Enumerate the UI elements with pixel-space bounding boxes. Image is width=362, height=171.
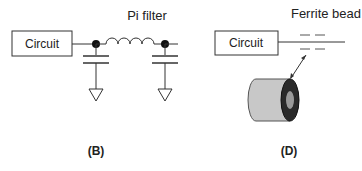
ground-icon [158, 89, 172, 101]
caption-d: (D) [281, 144, 298, 158]
pi-filter-title: Pi filter [127, 8, 167, 23]
ferrite-bead-illustration [248, 79, 299, 121]
panel-d: Ferrite bead Circuit (D) [215, 6, 361, 158]
capacitor-icon [83, 44, 109, 89]
inductor-icon [96, 38, 164, 44]
ground-icon [89, 89, 103, 101]
circuit-block-label: Circuit [229, 36, 264, 50]
caption-b: (B) [88, 144, 105, 158]
panel-b: Pi filter Circuit (B) [12, 8, 178, 158]
diagram-canvas: Pi filter Circuit (B) Ferrite bead C [0, 0, 362, 171]
capacitor-icon [152, 44, 178, 89]
ferrite-bead-title: Ferrite bead [291, 6, 361, 21]
double-arrow-icon [290, 55, 306, 79]
circuit-block-label: Circuit [25, 37, 60, 51]
